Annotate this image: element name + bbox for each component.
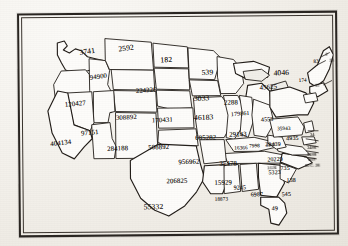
state-value-south-carolina: 545 — [282, 191, 291, 197]
state-value-nevada: 97151 — [81, 128, 99, 137]
state-value-north-carolina: 138 — [286, 177, 295, 183]
state-value-indiana: 7998 — [249, 142, 260, 148]
state-value-missouri: 29143 — [229, 130, 247, 137]
state-value-new-mexico: 508892 — [148, 143, 169, 151]
state-value-iowa: 2288 — [224, 98, 238, 105]
state-value-labels: 3741259218253994900120427224226303346183… — [17, 11, 335, 234]
state-value-maine: 83 — [313, 58, 319, 64]
state-value-massachusetts: 174 — [299, 77, 307, 83]
state-value-minnesota: 539 — [201, 67, 213, 77]
state-value-texas-north: 206825 — [166, 177, 187, 185]
state-value-louisiana: 15929 — [214, 178, 232, 185]
state-value-wyoming: 224226 — [136, 86, 157, 94]
state-value-connecticut: 15 — [315, 83, 320, 88]
state-value-maryland: 3486 — [307, 145, 316, 150]
state-value-wisconsin: 179861 — [231, 110, 250, 117]
state-value-north-dakota: 182 — [160, 55, 172, 65]
state-value-kansas: 685282 — [195, 133, 216, 141]
state-value-arkansas: 35478 — [219, 159, 237, 166]
state-value-rhode-island: 209 — [308, 157, 315, 162]
state-value-district-of-columbia: D.C. 28 — [305, 163, 320, 168]
state-value-washington: 3741 — [79, 46, 96, 57]
state-value-montana: 2592 — [118, 42, 135, 53]
state-value-new-york: 4046 — [273, 68, 289, 78]
state-value-kentucky: 20229 — [267, 156, 283, 163]
state-value-georgia-west: 6987 — [251, 191, 264, 197]
state-value-south-dakota: 3033 — [194, 93, 210, 103]
state-value-east-small-1: 5439 — [266, 142, 275, 147]
state-value-illinois: 16366 — [234, 144, 248, 150]
state-value-delaware: 9188 — [307, 152, 316, 157]
state-value-new-jersey: 34 — [310, 132, 315, 137]
state-value-florida: 49 — [272, 205, 278, 211]
state-value-alabama: 9245 — [233, 184, 246, 190]
state-value-oklahoma: 956962 — [178, 158, 199, 166]
state-value-oregon: 120427 — [65, 99, 87, 108]
state-value-tennessee: 5323 — [268, 169, 281, 175]
state-value-california: 404134 — [50, 138, 72, 147]
state-value-michigan: 4553 — [261, 116, 274, 123]
state-value-pennsylvania: 35943 — [277, 125, 291, 132]
state-value-west-virginia: 3126 — [267, 165, 276, 170]
state-value-nebraska: 46183 — [194, 113, 214, 123]
state-value-colorado: 170431 — [152, 116, 173, 124]
state-value-mississippi: 18873 — [215, 195, 229, 201]
state-value-arizona: 284188 — [107, 144, 128, 152]
state-value-utah: 308892 — [116, 113, 137, 121]
state-value-vermont: 2 — [325, 52, 328, 57]
state-value-ohio-east: 4935 — [286, 135, 299, 141]
state-value-idaho: 94900 — [89, 72, 107, 81]
state-value-new-hampshire: 23 — [329, 58, 334, 63]
state-value-ohio: 29439 — [265, 141, 281, 147]
state-value-virginia: 735 — [280, 165, 289, 171]
state-value-texas: 55332 — [144, 202, 164, 212]
state-value-michigan-upper: 45625 — [259, 83, 277, 91]
